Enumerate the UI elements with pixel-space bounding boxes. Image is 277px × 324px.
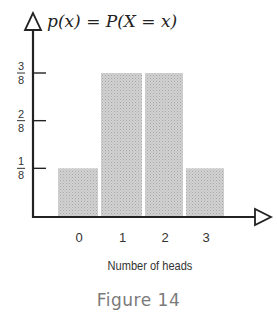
x-axis-arrow-icon <box>255 209 271 225</box>
bar-3 <box>186 168 224 216</box>
figure-caption: Figure 14 <box>0 290 277 310</box>
y-tick-denominator: 8 <box>18 74 24 86</box>
y-tick-numerator: 2 <box>18 108 24 120</box>
y-axis-title: p(x) = P(X = x) <box>47 11 177 31</box>
x-tick-labels: 0123 <box>75 230 209 245</box>
bar-0 <box>58 168 98 216</box>
bars <box>58 73 224 216</box>
x-axis-label: Number of heads <box>48 258 252 273</box>
y-tick-denominator: 8 <box>18 122 24 134</box>
y-axis-arrow-icon <box>25 13 41 30</box>
y-ticks: 182838 <box>17 60 46 181</box>
y-tick-numerator: 3 <box>18 60 24 72</box>
x-tick-label: 3 <box>202 230 209 245</box>
x-tick-label: 1 <box>119 230 126 245</box>
bar-2 <box>145 73 183 216</box>
x-tick-label: 0 <box>75 230 82 245</box>
y-tick-denominator: 8 <box>18 169 24 181</box>
x-tick-label: 2 <box>161 230 168 245</box>
y-tick-numerator: 1 <box>18 155 24 167</box>
bar-chart: 182838 0123 p(x) = P(X = x) <box>0 0 277 285</box>
bar-1 <box>101 73 142 216</box>
